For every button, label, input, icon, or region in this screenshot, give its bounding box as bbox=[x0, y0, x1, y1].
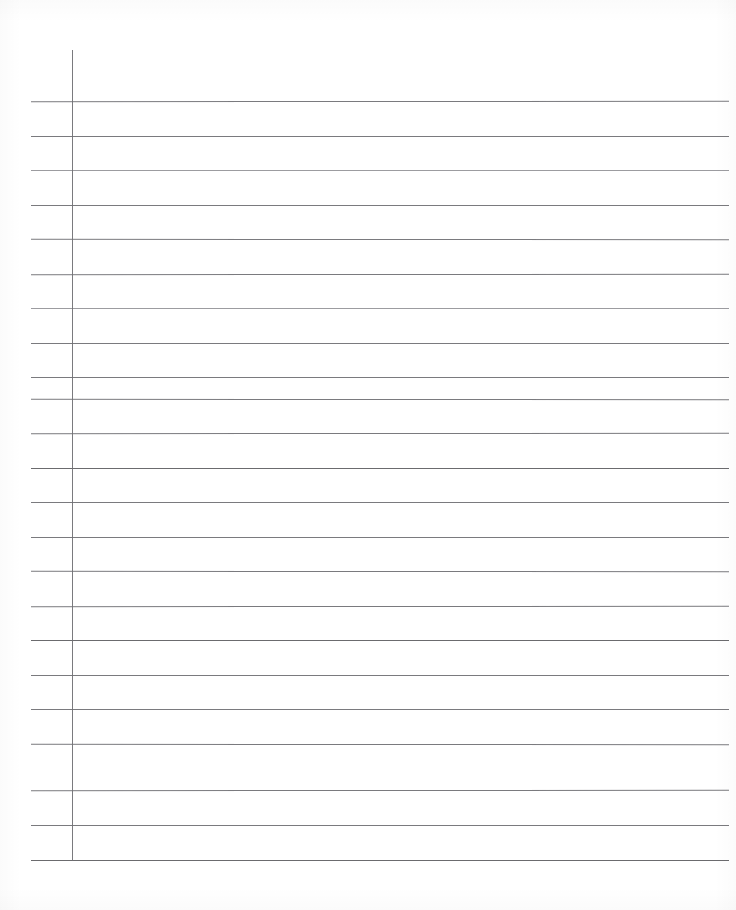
rule-line bbox=[31, 274, 729, 275]
rule-line bbox=[31, 239, 729, 240]
rule-line bbox=[31, 790, 729, 791]
rule-line bbox=[31, 468, 729, 469]
rule-line bbox=[31, 433, 729, 434]
rule-line bbox=[31, 606, 729, 607]
rule-line bbox=[31, 136, 729, 137]
left-margin-rule bbox=[72, 50, 73, 861]
rule-line bbox=[31, 709, 729, 710]
rule-line bbox=[31, 377, 729, 378]
rule-line bbox=[31, 537, 729, 538]
rule-line bbox=[31, 640, 729, 641]
rule-line bbox=[31, 571, 729, 572]
rule-line bbox=[31, 744, 729, 745]
rule-line bbox=[31, 502, 729, 503]
rule-line bbox=[31, 825, 729, 826]
rule-line bbox=[31, 860, 729, 861]
rule-line bbox=[31, 399, 729, 400]
rule-line bbox=[31, 343, 729, 344]
lined-paper-sheet bbox=[0, 0, 736, 910]
rule-line bbox=[31, 170, 729, 171]
rule-line bbox=[31, 675, 729, 676]
rule-line bbox=[31, 101, 729, 102]
rule-line bbox=[31, 205, 729, 206]
rule-line bbox=[31, 308, 729, 309]
